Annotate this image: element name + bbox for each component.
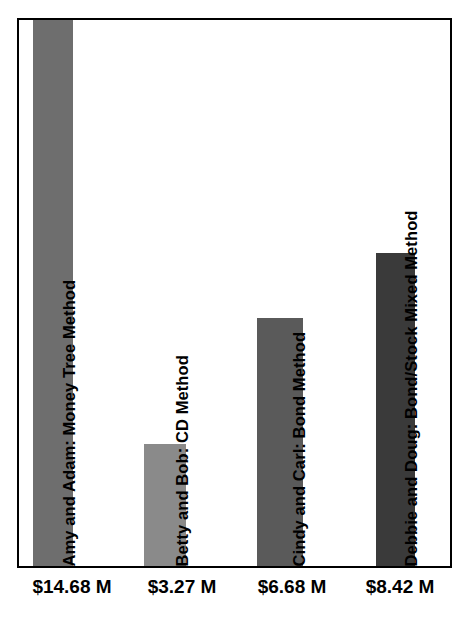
value-label-row: $14.68 M $3.27 M $6.68 M $8.42 M — [17, 576, 452, 610]
value-label-betty-and-bob: $3.27 M — [129, 576, 235, 598]
bar-label-debbie-and-doug: Debbie and Doug: Bond/Stock Mixed Method — [403, 210, 420, 566]
value-label-cindy-and-carl: $6.68 M — [239, 576, 345, 598]
value-label-amy-and-adam: $14.68 M — [17, 576, 127, 598]
bar-label-betty-and-bob: Betty and Bob: CD Method — [174, 355, 191, 566]
bar-label-cindy-and-carl: Cindy and Carl: Bond Method — [291, 331, 308, 566]
bar-label-amy-and-adam: Amy and Adam: Money Tree Method — [61, 279, 78, 566]
bar-chart: Amy and Adam: Money Tree Method Betty an… — [0, 0, 471, 628]
value-label-debbie-and-doug: $8.42 M — [347, 576, 453, 598]
plot-area: Amy and Adam: Money Tree Method Betty an… — [17, 18, 452, 568]
